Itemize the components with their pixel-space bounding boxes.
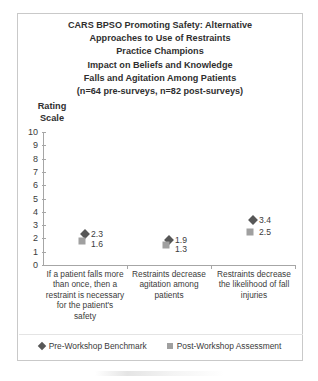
- chart-title-line-3: Practice Champions: [18, 45, 302, 58]
- chart-title-line-6: (n=64 pre-surveys, n=82 post-surveys): [18, 85, 302, 98]
- x-category-1-line-1: If a patient falls more: [35, 269, 135, 279]
- legend-label-post-workshop: Post-Workshop Assessment: [177, 341, 282, 351]
- data-point-post-1: [78, 237, 85, 244]
- data-label-post-2: 1.3: [175, 244, 187, 253]
- x-category-1-line-5: safety: [35, 311, 135, 321]
- x-category-1-line-3: restraint is necessary: [35, 290, 135, 300]
- chart-legend: Pre-Workshop Benchmark Post-Workshop Ass…: [18, 341, 302, 351]
- y-tick-2: 2: [42, 238, 46, 239]
- x-category-2-line-3: patients: [121, 290, 217, 300]
- legend-item-pre-workshop[interactable]: Pre-Workshop Benchmark: [39, 341, 147, 351]
- y-tick-8: 8: [42, 159, 46, 160]
- legend-label-pre-workshop: Pre-Workshop Benchmark: [49, 341, 147, 351]
- y-axis-title-line-1: Rating: [22, 100, 82, 112]
- y-tick-label-10: 10: [22, 128, 38, 137]
- y-tick-0: 0: [42, 265, 46, 266]
- y-tick-6: 6: [42, 185, 46, 186]
- x-category-3-line-1: Restraints decrease: [204, 269, 304, 279]
- x-category-2-line-1: Restraints decrease: [121, 269, 217, 279]
- data-point-post-2: [162, 241, 169, 248]
- x-category-3-line-2: the likelihood of fall: [204, 279, 304, 289]
- x-category-label-2: Restraints decrease agitation among pati…: [121, 269, 217, 300]
- y-tick-label-5: 5: [22, 194, 38, 203]
- y-tick-9: 9: [42, 145, 46, 146]
- square-marker-icon: [167, 343, 173, 349]
- x-axis-category-labels: If a patient falls more than once, then …: [43, 269, 296, 335]
- x-category-label-3: Restraints decrease the likelihood of fa…: [204, 269, 304, 300]
- y-tick-label-6: 6: [22, 181, 38, 190]
- chart-title-line-1: CARS BPSO Promoting Safety: Alternative: [18, 19, 302, 32]
- y-tick-4: 4: [42, 212, 46, 213]
- chart-title-line-5: Falls and Agitation Among Patients: [18, 72, 302, 85]
- x-category-2-line-2: agitation among: [121, 279, 217, 289]
- y-tick-label-4: 4: [22, 207, 38, 216]
- x-category-label-1: If a patient falls more than once, then …: [35, 269, 135, 321]
- data-point-pre-3: [248, 215, 258, 225]
- page-artifact: [95, 371, 225, 376]
- chart-title-line-2: Approaches to Use of Restraints: [18, 32, 302, 45]
- chart-title-line-4: Impact on Beliefs and Knowledge: [18, 59, 302, 72]
- y-tick-label-3: 3: [22, 221, 38, 230]
- x-category-3-line-3: injuries: [204, 290, 304, 300]
- data-label-post-3: 2.5: [259, 228, 271, 237]
- data-label-post-1: 1.6: [91, 239, 103, 248]
- chart-title: CARS BPSO Promoting Safety: Alternative …: [18, 19, 302, 98]
- y-tick-7: 7: [42, 172, 46, 173]
- y-tick-label-2: 2: [22, 234, 38, 243]
- y-tick-3: 3: [42, 225, 46, 226]
- legend-divider: [19, 334, 303, 335]
- legend-item-post-workshop[interactable]: Post-Workshop Assessment: [167, 341, 282, 351]
- y-axis-title-line-2: Scale: [22, 112, 82, 124]
- diamond-marker-icon: [37, 342, 45, 350]
- y-tick-5: 5: [42, 199, 46, 200]
- y-tick-label-8: 8: [22, 154, 38, 163]
- plot-area: 10 9 8 7 6 5 4 3 2 1 0 2.3 1.6 1.9 1.3 3…: [43, 132, 296, 266]
- x-category-1-line-4: for the patient's: [35, 300, 135, 310]
- y-tick-1: 1: [42, 252, 46, 253]
- y-tick-label-1: 1: [22, 247, 38, 256]
- y-axis-title: Rating Scale: [22, 100, 82, 124]
- y-tick-label-9: 9: [22, 141, 38, 150]
- x-category-1-line-2: than once, then a: [35, 279, 135, 289]
- data-label-pre-3: 3.4: [259, 216, 271, 225]
- y-tick-10: 10: [42, 132, 46, 133]
- x-axis-line: [43, 265, 296, 266]
- data-point-post-3: [246, 228, 253, 235]
- chart-container: CARS BPSO Promoting Safety: Alternative …: [17, 13, 303, 361]
- y-tick-label-7: 7: [22, 167, 38, 176]
